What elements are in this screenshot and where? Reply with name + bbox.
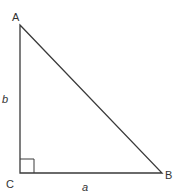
vertex-label-b: B: [165, 169, 172, 181]
side-label-a: a: [82, 181, 88, 191]
right-triangle-diagram: A B C b a: [0, 0, 177, 191]
side-label-b: b: [2, 93, 8, 105]
vertex-label-c: C: [6, 178, 14, 190]
right-angle-marker: [20, 159, 34, 173]
vertex-label-a: A: [12, 11, 20, 23]
triangle-abc: [20, 25, 162, 173]
